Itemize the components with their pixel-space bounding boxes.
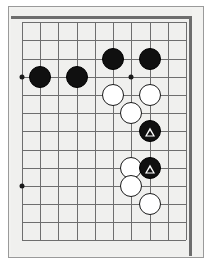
white-stone[interactable] [139, 193, 161, 215]
grid-line-horizontal-11 [22, 222, 186, 223]
grid-line-horizontal-5 [22, 113, 186, 114]
hoshi-left-upper-icon [20, 75, 25, 80]
go-board-diagram [0, 0, 212, 265]
white-stone[interactable] [102, 84, 124, 106]
hoshi-center-upper-icon [129, 75, 134, 80]
white-stone[interactable] [120, 175, 142, 197]
goban-surface [11, 9, 192, 256]
grid-line-horizontal-0 [22, 22, 186, 23]
black-stone[interactable] [29, 66, 51, 88]
white-stone[interactable] [139, 84, 161, 106]
grid-line-horizontal-7 [22, 150, 186, 151]
triangle-marker-icon [145, 164, 155, 173]
white-stone[interactable] [120, 102, 142, 124]
grid-line-horizontal-9 [22, 186, 186, 187]
grid-line-horizontal-1 [22, 40, 186, 41]
grid-line-horizontal-10 [22, 204, 186, 205]
board-edge-top [11, 16, 192, 19]
black-stone-marked[interactable] [139, 157, 161, 179]
grid-line-vertical-9 [186, 22, 187, 240]
hoshi-left-lower-icon [20, 184, 25, 189]
grid-line-horizontal-8 [22, 168, 186, 169]
black-stone[interactable] [139, 48, 161, 70]
board-edge-right [189, 16, 192, 256]
grid-line-horizontal-12 [22, 240, 186, 241]
grid-line-horizontal-6 [22, 131, 186, 132]
black-stone[interactable] [66, 66, 88, 88]
triangle-marker-icon [145, 127, 155, 136]
black-stone-marked[interactable] [139, 120, 161, 142]
black-stone[interactable] [102, 48, 124, 70]
